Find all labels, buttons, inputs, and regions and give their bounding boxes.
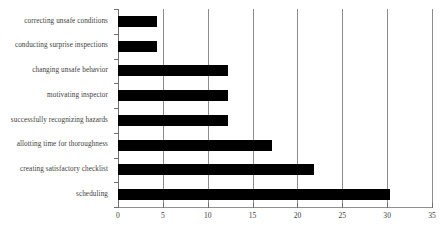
category-label: scheduling (0, 182, 113, 207)
bar-slot (118, 9, 432, 34)
x-tick (342, 203, 343, 208)
category-axis-labels: correcting unsafe conditionsconducting s… (0, 9, 113, 207)
bar-slot (118, 83, 432, 108)
bar (118, 41, 157, 52)
x-tick-label: 25 (338, 211, 346, 220)
y-tick (114, 182, 118, 183)
x-tick (163, 203, 164, 208)
category-label: changing unsafe behavior (0, 59, 113, 84)
bar (118, 65, 228, 76)
x-tick (387, 203, 388, 208)
x-tick (297, 203, 298, 208)
x-tick (118, 203, 119, 208)
bar-slot (118, 34, 432, 59)
x-tick-label: 30 (383, 211, 391, 220)
y-tick (114, 133, 118, 134)
x-tick-label: 10 (204, 211, 212, 220)
bar (118, 189, 390, 200)
x-tick (208, 203, 209, 208)
x-tick-label: 0 (116, 211, 120, 220)
gridline (432, 9, 433, 207)
category-label: allotting time for thoroughness (0, 133, 113, 158)
bar (118, 90, 228, 101)
bar-slot (118, 108, 432, 133)
bar-slot (118, 158, 432, 183)
y-tick (114, 9, 118, 10)
x-tick (432, 203, 433, 208)
category-label: motivating inspector (0, 83, 113, 108)
category-label: correcting unsafe conditions (0, 9, 113, 34)
y-tick (114, 207, 118, 208)
x-tick-label: 15 (249, 211, 257, 220)
y-axis-line (118, 9, 119, 208)
x-axis-line (118, 207, 432, 208)
y-tick (114, 158, 118, 159)
x-tick-label: 20 (294, 211, 302, 220)
bar (118, 16, 157, 27)
bar-series (118, 9, 432, 207)
bar (118, 164, 314, 175)
x-tick (253, 203, 254, 208)
x-tick-label: 5 (161, 211, 165, 220)
y-tick (114, 34, 118, 35)
y-tick (114, 108, 118, 109)
bar-slot (118, 59, 432, 84)
bar (118, 140, 272, 151)
y-tick (114, 83, 118, 84)
category-label: conducting surprise inspections (0, 34, 113, 59)
bar-slot (118, 133, 432, 158)
bar (118, 115, 228, 126)
y-tick (114, 59, 118, 60)
bar-slot (118, 182, 432, 207)
category-label: creating satisfactory checklist (0, 158, 113, 183)
plot-area (118, 9, 432, 207)
x-tick-label: 35 (428, 211, 436, 220)
category-label: successfully recognizing hazards (0, 108, 113, 133)
horizontal-bar-chart: correcting unsafe conditionsconducting s… (0, 0, 442, 235)
